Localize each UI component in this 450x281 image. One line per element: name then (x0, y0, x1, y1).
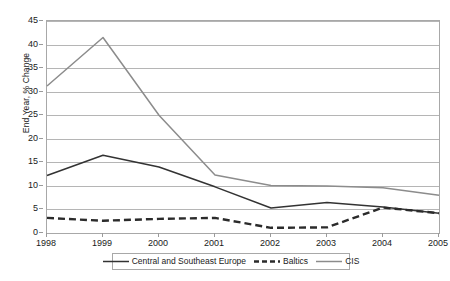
legend-label: Central and Southeast Europe (132, 257, 246, 266)
legend-item: CIS (312, 257, 363, 266)
x-tick-mark (326, 233, 327, 237)
legend-item: Central and Southeast Europe (99, 257, 250, 266)
series-line (47, 37, 439, 195)
x-tick-label: 2002 (260, 239, 280, 248)
chart-legend: Central and Southeast EuropeBalticsCIS (112, 253, 350, 270)
y-tick-mark (39, 185, 43, 186)
x-tick-mark (158, 233, 159, 237)
y-tick-label: 40 (28, 39, 38, 48)
y-tick-mark (39, 20, 43, 21)
y-tick-label: 15 (28, 157, 38, 166)
legend-label: Baltics (283, 257, 308, 266)
x-tick-mark (102, 233, 103, 237)
solid-gray-line-swatch (316, 258, 342, 265)
y-tick-mark (39, 91, 43, 92)
x-axis-ticks: 19981999200020012002200320042005 (46, 233, 438, 255)
legend-item: Baltics (250, 257, 312, 266)
y-tick-mark (39, 67, 43, 68)
x-tick-label: 1998 (36, 239, 56, 248)
x-tick-mark (270, 233, 271, 237)
y-tick-label: 0 (33, 228, 38, 237)
legend-label: CIS (345, 257, 359, 266)
x-tick-label: 2003 (316, 239, 336, 248)
y-tick-mark (39, 44, 43, 45)
y-tick-label: 10 (28, 180, 38, 189)
y-tick-mark (39, 208, 43, 209)
x-tick-label: 2005 (428, 239, 448, 248)
x-tick-label: 2004 (372, 239, 392, 248)
y-tick-mark (39, 161, 43, 162)
x-tick-label: 2001 (204, 239, 224, 248)
y-tick-label: 35 (28, 63, 38, 72)
series-line (47, 155, 439, 213)
y-tick-label: 30 (28, 86, 38, 95)
x-tick-mark (382, 233, 383, 237)
plot-area (46, 20, 440, 234)
y-tick-label: 5 (33, 204, 38, 213)
solid-line-swatch (103, 258, 129, 265)
dashed-line-swatch (254, 258, 280, 265)
y-tick-label: 25 (28, 110, 38, 119)
y-tick-mark (39, 232, 43, 233)
x-tick-mark (214, 233, 215, 237)
line-chart: End Year, % Change 051015202530354045 19… (0, 0, 450, 281)
x-tick-mark (438, 233, 439, 237)
x-tick-label: 1999 (92, 239, 112, 248)
y-tick-label: 45 (28, 16, 38, 25)
y-tick-label: 20 (28, 133, 38, 142)
x-tick-mark (46, 233, 47, 237)
x-tick-label: 2000 (148, 239, 168, 248)
series-layer (47, 21, 439, 233)
series-line (47, 208, 439, 228)
y-tick-mark (39, 138, 43, 139)
y-tick-mark (39, 114, 43, 115)
